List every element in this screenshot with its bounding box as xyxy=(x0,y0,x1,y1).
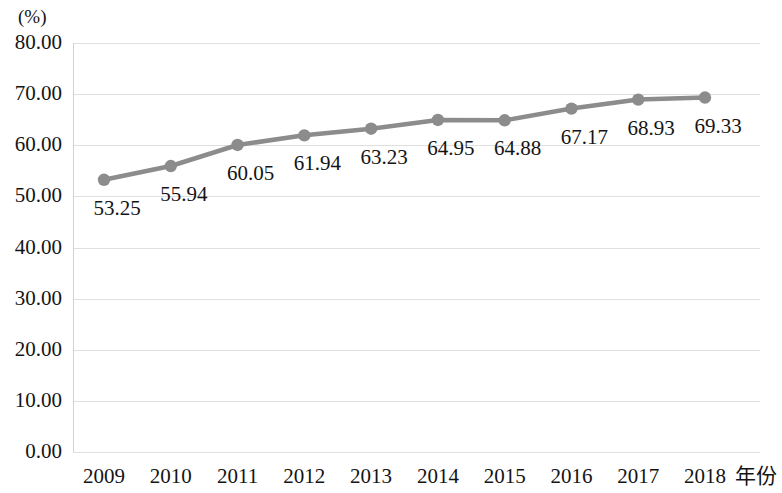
x-axis-tick-label: 2014 xyxy=(403,466,473,487)
data-point-marker xyxy=(565,102,577,114)
series-plot xyxy=(0,0,782,493)
data-point-label: 55.94 xyxy=(148,184,220,205)
data-point-label: 53.25 xyxy=(81,198,153,219)
x-axis-tick-label: 2018 xyxy=(670,466,740,487)
x-axis-tick-label: 2012 xyxy=(269,466,339,487)
data-point-marker xyxy=(365,123,377,135)
y-axis-tick-label: 50.00 xyxy=(0,185,62,206)
y-axis-tick-label: 40.00 xyxy=(0,237,62,258)
x-axis-tick-label: 2015 xyxy=(470,466,540,487)
y-axis-tick-label: 20.00 xyxy=(0,339,62,360)
gridline xyxy=(73,350,760,351)
data-point-label: 64.88 xyxy=(482,138,554,159)
gridline xyxy=(73,248,760,249)
x-axis-tick-label: 2017 xyxy=(603,466,673,487)
data-point-marker xyxy=(432,114,444,126)
data-point-marker xyxy=(298,129,310,141)
y-axis-tick-label: 60.00 xyxy=(0,134,62,155)
y-axis-tick-label: 30.00 xyxy=(0,288,62,309)
gridline xyxy=(73,94,760,95)
y-axis-tick-label: 0.00 xyxy=(0,441,62,462)
y-axis-line xyxy=(73,43,74,452)
y-axis-tick-label: 70.00 xyxy=(0,83,62,104)
data-point-label: 69.33 xyxy=(682,116,754,137)
data-point-marker xyxy=(498,114,510,126)
data-point-marker xyxy=(165,160,177,172)
y-axis-tick-label: 10.00 xyxy=(0,390,62,411)
gridline xyxy=(73,299,760,300)
x-axis-tick-label: 2013 xyxy=(336,466,406,487)
data-point-label: 64.95 xyxy=(415,138,487,159)
gridline xyxy=(73,401,760,402)
x-axis-tick-label: 2010 xyxy=(136,466,206,487)
data-point-label: 67.17 xyxy=(548,127,620,148)
x-axis-tick-label: 2011 xyxy=(203,466,273,487)
gridline xyxy=(73,43,760,44)
x-axis-title: 年份 xyxy=(735,466,777,487)
data-point-label: 61.94 xyxy=(281,153,353,174)
data-point-marker xyxy=(632,93,644,105)
y-axis-tick-label: 80.00 xyxy=(0,32,62,53)
x-axis-tick-label: 2016 xyxy=(536,466,606,487)
data-point-label: 63.23 xyxy=(348,147,420,168)
data-point-label: 60.05 xyxy=(215,163,287,184)
data-point-marker xyxy=(98,174,110,186)
x-axis-tick-label: 2009 xyxy=(69,466,139,487)
line-chart: (%) 80.0070.0060.0050.0040.0030.0020.001… xyxy=(0,0,782,493)
data-point-label: 68.93 xyxy=(615,118,687,139)
gridline xyxy=(73,452,760,453)
y-axis-unit-label: (%) xyxy=(18,7,46,26)
